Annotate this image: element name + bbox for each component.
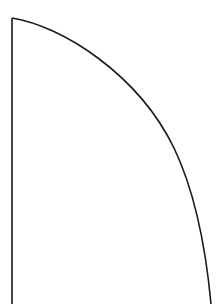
line-drawing-svg (0, 0, 222, 304)
canvas-background (0, 0, 222, 304)
figure-canvas (0, 0, 222, 304)
